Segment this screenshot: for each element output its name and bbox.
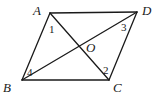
angle-label-1: 1	[49, 23, 55, 35]
angle-label-4: 4	[27, 66, 33, 78]
angle-label-3: 3	[121, 21, 127, 33]
parallelogram-diagram: A D B C O 1 3 4 2	[0, 0, 162, 97]
vertex-label-C: C	[113, 80, 122, 95]
center-label-O: O	[86, 40, 96, 55]
diagonal-BD	[22, 12, 137, 80]
vertex-label-D: D	[141, 3, 152, 18]
vertex-label-B: B	[3, 80, 11, 95]
angle-label-2: 2	[103, 64, 109, 76]
vertex-label-A: A	[32, 3, 41, 18]
edge-AD	[50, 12, 137, 13]
